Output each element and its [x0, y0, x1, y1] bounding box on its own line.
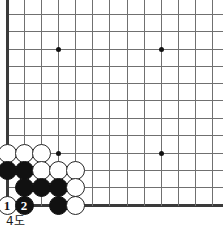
move-number-label: 1 [4, 198, 11, 211]
board-bottom-edge [7, 204, 223, 207]
black-stone-e [49, 178, 68, 197]
grid-line-horizontal [7, 31, 223, 32]
black-stone-f [49, 196, 68, 215]
black-stone-c [15, 178, 34, 197]
star-lower-left [56, 151, 61, 156]
white-stone-e [49, 161, 68, 180]
black-stone-d [32, 178, 51, 197]
grid-line-horizontal [7, 118, 223, 119]
grid-line-horizontal [7, 83, 223, 84]
grid-line-vertical [127, 0, 128, 206]
grid-line-vertical [161, 0, 162, 206]
white-stone-f [66, 161, 85, 180]
grid-line-vertical [144, 0, 145, 206]
black-stone-b [15, 161, 34, 180]
grid-line-horizontal [7, 100, 223, 101]
grid-line-horizontal [7, 14, 223, 15]
grid-line-vertical [109, 0, 110, 206]
star-lower-right [159, 151, 164, 156]
star-upper-right [159, 47, 164, 52]
go-diagram-figure: 12 4도 [0, 0, 223, 232]
grid-line-vertical [92, 0, 93, 206]
grid-line-vertical [178, 0, 179, 206]
white-stone-b [15, 144, 34, 163]
grid-line-vertical [212, 0, 213, 206]
white-stone-h [66, 196, 85, 215]
grid-line-horizontal [7, 66, 223, 67]
move-number-label: 2 [21, 198, 28, 211]
grid-line-horizontal [7, 135, 223, 136]
diagram-caption: 4도 [6, 211, 25, 228]
go-board: 12 [0, 0, 223, 232]
grid-line-vertical [195, 0, 196, 206]
white-stone-c [32, 144, 51, 163]
star-upper-left [56, 47, 61, 52]
white-stone-g [66, 178, 85, 197]
white-stone-d [32, 161, 51, 180]
grid-line-horizontal [7, 49, 223, 50]
